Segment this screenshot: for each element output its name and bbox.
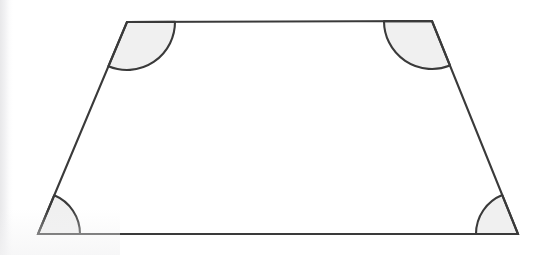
edges-group <box>38 21 518 234</box>
angle-arc-top-left <box>108 22 175 70</box>
angle-arc-top-right <box>384 21 450 69</box>
trapezoid-outline <box>38 21 518 234</box>
angle-arc-bottom-right <box>476 195 518 234</box>
figure-canvas <box>0 0 544 255</box>
trapezoid-diagram <box>0 0 544 255</box>
angle-arc-bottom-left <box>38 195 80 234</box>
